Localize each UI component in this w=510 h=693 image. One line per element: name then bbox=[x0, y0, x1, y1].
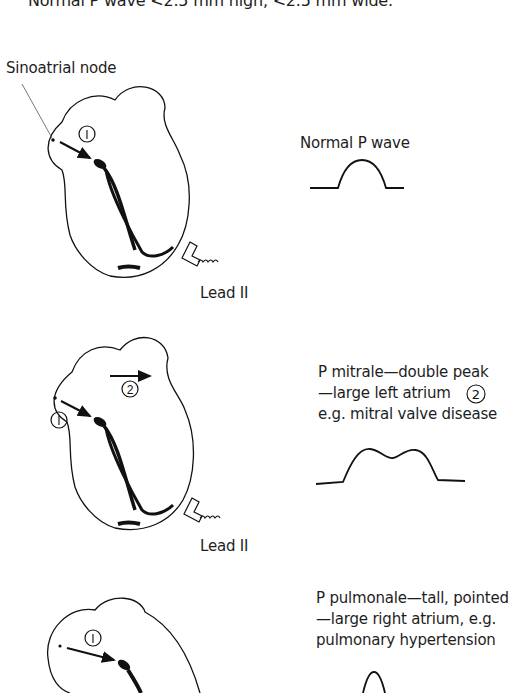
conduction-arrow-3 bbox=[67, 648, 114, 660]
normal-p-wave-trace bbox=[310, 160, 404, 188]
sa-node-dot bbox=[51, 138, 55, 142]
p-pulmonale-trace bbox=[363, 672, 385, 693]
conduction-arrow-1 bbox=[60, 142, 90, 158]
svg-text:I: I bbox=[85, 128, 88, 142]
heart-outline-3 bbox=[48, 598, 200, 693]
lead-electrode-1 bbox=[182, 242, 218, 266]
ecg-p-wave-diagram: I 2 I 2 I bbox=[0, 0, 510, 693]
svg-text:2: 2 bbox=[127, 383, 134, 397]
heart-outline-2 bbox=[54, 338, 193, 530]
svg-text:I: I bbox=[91, 632, 94, 646]
svg-text:2: 2 bbox=[472, 387, 480, 402]
svg-text:I: I bbox=[57, 414, 60, 428]
callout-line bbox=[22, 84, 52, 138]
conduction-arrow-2 bbox=[61, 401, 90, 416]
lead-electrode-2 bbox=[184, 498, 220, 522]
heart-outline-1 bbox=[48, 87, 189, 278]
p-mitrale-trace bbox=[316, 449, 465, 484]
